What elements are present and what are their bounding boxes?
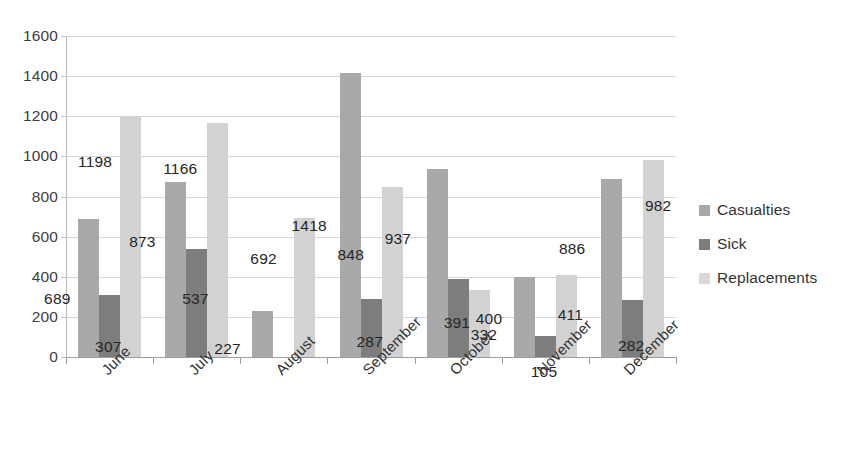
chart-legend: CasualtiesSickReplacements (699, 193, 817, 295)
x-tick-mark (589, 358, 590, 364)
data-label-casualties-september: 1418 (292, 218, 327, 234)
y-tick-label: 600 (32, 229, 58, 245)
y-tick-label: 0 (49, 349, 58, 365)
y-tick-label: 800 (32, 189, 58, 205)
data-label-replacements-july: 1166 (163, 161, 197, 177)
x-tick-mark (502, 358, 503, 364)
bar-casualties-august (252, 311, 273, 357)
data-label-replacements-december: 982 (645, 198, 671, 214)
x-tick-mark (66, 358, 67, 364)
x-tick-mark (153, 358, 154, 364)
y-tick-label: 1000 (23, 148, 58, 164)
data-label-casualties-november: 400 (476, 311, 502, 327)
y-tick-label: 200 (32, 309, 58, 325)
y-tick-label: 1200 (23, 108, 58, 124)
legend-item-replacements[interactable]: Replacements (699, 261, 817, 295)
y-tick-label: 400 (32, 269, 58, 285)
x-tick-mark (676, 358, 677, 364)
data-label-casualties-june: 689 (44, 291, 70, 307)
bar-casualties-november (514, 277, 535, 357)
x-tick-mark (327, 358, 328, 364)
plot-area (66, 36, 676, 357)
bar-casualties-june (78, 219, 99, 357)
bar-casualties-july (165, 182, 186, 357)
legend-item-sick[interactable]: Sick (699, 227, 817, 261)
x-tick-mark (240, 358, 241, 364)
bar-replacements-july (207, 123, 228, 357)
bar-casualties-december (601, 179, 622, 357)
data-label-replacements-september: 848 (338, 247, 364, 263)
data-label-sick-october: 391 (444, 315, 470, 331)
legend-swatch-icon (699, 205, 710, 216)
bar-chart: 16001400120010008006004002000 6893071198… (0, 0, 849, 471)
legend-label: Sick (717, 235, 747, 253)
data-label-sick-july: 537 (182, 291, 208, 307)
data-label-casualties-december: 886 (559, 241, 585, 257)
data-label-casualties-august: 227 (214, 341, 240, 357)
data-label-replacements-august: 692 (250, 251, 276, 267)
legend-label: Casualties (717, 201, 790, 219)
y-tick-label: 1400 (23, 68, 58, 84)
data-label-casualties-july: 873 (129, 234, 155, 250)
bar-casualties-september (340, 73, 361, 357)
x-tick-mark (415, 358, 416, 364)
legend-swatch-icon (699, 273, 710, 284)
legend-label: Replacements (717, 269, 817, 287)
data-label-replacements-june: 1198 (78, 154, 112, 170)
legend-item-casualties[interactable]: Casualties (699, 193, 817, 227)
legend-swatch-icon (699, 239, 710, 250)
y-tick-label: 1600 (23, 28, 58, 44)
data-label-casualties-october: 937 (385, 231, 411, 247)
